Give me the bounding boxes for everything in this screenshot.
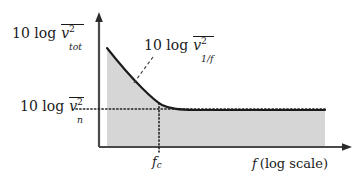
y-top-label-superscript: 2 [69,24,75,33]
y-floor-label-subscript: n [77,115,83,124]
y-axis-arrowhead [95,12,103,22]
corner-frequency-label: fc [152,155,162,170]
y-floor-label-superscript: 2 [77,97,83,106]
y-floor-label-prefix: 10 log [20,99,64,113]
curve-label-prefix: 10 log [144,38,188,52]
corner-frequency-subscript: c [157,160,162,170]
curve-label-overbar-group: v21/f [193,36,214,52]
curve-label-leader-line [134,57,154,84]
noise-spectrum-figure: 10 log v2tot 10 log v21/f 10 log v2n fc [0,0,364,183]
y-top-label-subscript: tot [69,42,82,51]
y-floor-label-variable: v [69,98,77,114]
x-axis-arrowhead [342,143,352,151]
curve-label-subscript: 1/f [201,54,213,63]
y-axis-total-noise-label: 10 log v2tot [12,24,84,40]
curve-label-variable: v [193,37,201,53]
x-axis-label-qualifier: (log scale) [260,156,328,171]
y-top-label-variable: v [61,25,69,41]
y-top-label-overbar-group: v2tot [61,24,84,40]
x-axis-label-variable: f [252,156,257,171]
y-floor-label-overbar-group: v2n [69,97,84,113]
shaded-noise-region [107,48,325,146]
y-axis-noise-floor-label: 10 log v2n [20,97,84,113]
y-top-label-prefix: 10 log [12,26,56,40]
curve-1-over-f-label: 10 log v21/f [144,36,214,52]
curve-label-superscript: 2 [201,36,207,45]
x-axis-label: f(log scale) [252,157,328,170]
